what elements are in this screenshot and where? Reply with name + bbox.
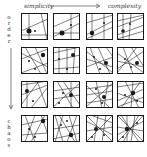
cell-drawing (117, 13, 144, 40)
diagram-cell-r1-c2 (86, 47, 113, 74)
diagram-cell-r1-c0 (21, 47, 48, 74)
cell-drawing (53, 115, 80, 142)
diagram-cell-r0-c1 (53, 13, 80, 40)
cell-drawing (86, 13, 113, 40)
diagram-cell-r3-c1 (53, 115, 80, 142)
cell-drawing (117, 115, 144, 142)
diagram-cell-r1-c1 (53, 47, 80, 74)
diagram-cell-r2-c3 (117, 81, 144, 108)
cell-drawing (21, 47, 48, 74)
cell-drawing (21, 81, 48, 108)
diagram-cell-r0-c3 (117, 13, 144, 40)
diagram-cell-r2-c1 (53, 81, 80, 108)
diagram-cell-r1-c3 (117, 47, 144, 74)
diagram-cell-r2-c2 (86, 81, 113, 108)
cell-drawing (86, 47, 113, 74)
cell-drawing (86, 115, 113, 142)
cell-drawing (53, 13, 80, 40)
cell-drawing (21, 115, 48, 142)
diagram-cell-r3-c2 (86, 115, 113, 142)
cell-drawing (86, 81, 113, 108)
cell-drawing (53, 81, 80, 108)
diagram-cell-r0-c2 (86, 13, 113, 40)
diagram-cell-r2-c0 (21, 81, 48, 108)
cell-drawing (117, 47, 144, 74)
diagram-cell-r3-c3 (117, 115, 144, 142)
diagram-cell-r3-c0 (21, 115, 48, 142)
cell-drawing (21, 13, 48, 40)
diagram-cell-r0-c0 (21, 13, 48, 40)
cell-drawing (117, 81, 144, 108)
cell-drawing (53, 47, 80, 74)
